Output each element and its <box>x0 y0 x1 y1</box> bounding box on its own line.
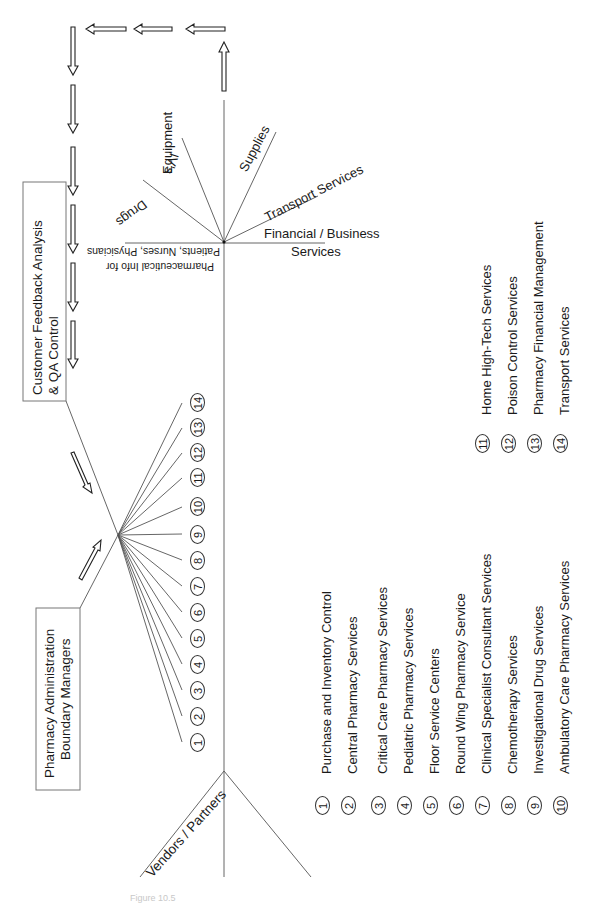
feedback-box-subtitle: & QA Control <box>46 316 61 395</box>
arrow-left-icon <box>86 24 126 34</box>
arrow-left-icon <box>186 24 225 34</box>
legend-item-13: Pharmacy Financial Management <box>531 221 546 415</box>
legend-item-11: Home High-Tech Services <box>479 265 494 415</box>
legend-item-7: Clinical Specialist Consultant Services <box>479 554 494 774</box>
legend-number-8: 8 <box>501 796 516 815</box>
legend-number-14: 14 <box>553 434 568 453</box>
arrow-up-icon <box>219 42 229 91</box>
legend-number-6: 6 <box>449 796 464 815</box>
feedback-box-title: Customer Feedback Analysis <box>30 220 45 395</box>
service-number-1: 1 <box>190 733 205 752</box>
legend-item-10: Ambulatory Care Pharmacy Services <box>557 561 572 774</box>
spoke-label-financial-line1: Financial / Business <box>264 226 380 241</box>
service-number-7: 7 <box>190 577 205 596</box>
service-number-10: 10 <box>190 497 205 516</box>
legend-number-13: 13 <box>527 434 542 453</box>
legend-number-11: 11 <box>475 434 490 453</box>
legend-number-1: 1 <box>315 796 330 815</box>
legend-number-12: 12 <box>501 434 516 453</box>
service-number-8: 8 <box>190 551 205 570</box>
legend-number-4: 4 <box>397 796 412 815</box>
service-number-13: 13 <box>190 418 205 437</box>
service-fan <box>118 403 182 742</box>
legend-number-3: 3 <box>371 796 386 815</box>
vendors-line-right <box>224 771 311 877</box>
service-number-9: 9 <box>190 525 205 544</box>
legend-number-7: 7 <box>475 796 490 815</box>
arrow-down-column <box>68 27 78 368</box>
arrow-diagonal-down-icon <box>71 452 92 493</box>
feedback-connector <box>66 401 118 535</box>
admin-box-title: Pharmacy Administration <box>42 629 57 778</box>
legend-number-9: 9 <box>527 796 542 815</box>
legend-item-12: Poison Control Services <box>505 276 520 415</box>
service-number-3: 3 <box>190 681 205 700</box>
service-number-5: 5 <box>190 629 205 648</box>
legend-item-8: Chemotherapy Services <box>505 635 520 774</box>
legend-item-1: Purchase and Inventory Control <box>319 591 334 774</box>
service-number-14: 14 <box>190 393 205 412</box>
legend-item-6: Round Wing Pharmacy Service <box>453 593 468 774</box>
legend-item-5: Floor Service Centers <box>427 648 442 774</box>
service-number-12: 12 <box>190 443 205 462</box>
spoke-label-financial-line2: Services <box>291 244 341 259</box>
service-number-6: 6 <box>190 603 205 622</box>
service-number-11: 11 <box>190 468 205 487</box>
legend-number-2: 2 <box>341 796 356 815</box>
legend-item-2: Central Pharmacy Services <box>345 617 360 775</box>
service-number-4: 4 <box>190 655 205 674</box>
legend-number-5: 5 <box>423 796 438 815</box>
figure-caption: Figure 10.5 <box>130 893 176 903</box>
upper-hub <box>222 240 225 243</box>
spoke-label-info-line1: Patients, Nurses, Physicians <box>87 246 220 258</box>
service-number-2: 2 <box>190 707 205 726</box>
arrow-left-icon <box>134 24 172 34</box>
legend-item-3: Critical Care Pharmacy Services <box>375 587 390 774</box>
spoke-label-info-line2: Pharmaceutical Info for <box>106 261 214 273</box>
legend-item-9: Investigational Drug Services <box>531 606 546 774</box>
legend-item-14: Transport Services <box>557 306 572 415</box>
admin-box-subtitle: Boundary Managers <box>58 638 73 760</box>
legend-number-10: 10 <box>553 796 568 815</box>
legend-item-4: Pediatric Pharmacy Services <box>401 608 416 774</box>
